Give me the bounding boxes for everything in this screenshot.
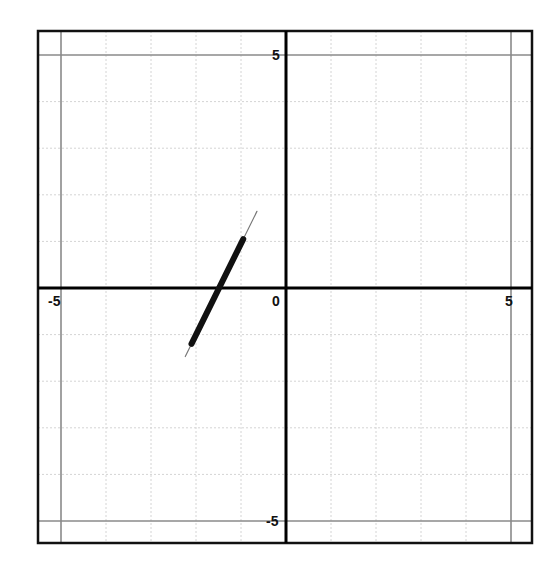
series-line bbox=[192, 239, 244, 344]
coordinate-plane: -5 0 5 5 -5 bbox=[0, 0, 556, 573]
y-tick-label-5: 5 bbox=[272, 47, 280, 63]
x-tick-label-neg5: -5 bbox=[48, 293, 61, 309]
x-tick-label-0: 0 bbox=[272, 293, 280, 309]
x-tick-label-5: 5 bbox=[505, 293, 513, 309]
y-tick-label-neg5: -5 bbox=[266, 513, 279, 529]
